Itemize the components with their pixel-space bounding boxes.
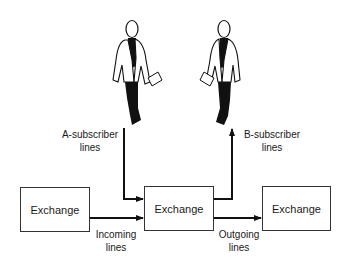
a-subscriber-line bbox=[124, 128, 143, 199]
b-subscriber-label: B-subscriber lines bbox=[238, 128, 306, 154]
a-subscriber-label-line1: A-subscriber bbox=[56, 128, 124, 141]
outgoing-label-line2: lines bbox=[212, 241, 266, 254]
incoming-label-line1: Incoming bbox=[88, 228, 144, 241]
b-subscriber-label-line2: lines bbox=[238, 141, 306, 154]
exchange-middle: Exchange bbox=[144, 186, 214, 231]
exchange-left-label: Exchange bbox=[31, 204, 80, 216]
b-subscriber-person-icon bbox=[200, 21, 240, 126]
outgoing-label: Outgoing lines bbox=[212, 228, 266, 254]
exchange-left: Exchange bbox=[20, 187, 90, 232]
a-subscriber-label: A-subscriber lines bbox=[56, 128, 124, 154]
a-subscriber-label-line2: lines bbox=[56, 141, 124, 154]
outgoing-label-line1: Outgoing bbox=[212, 228, 266, 241]
exchange-middle-label: Exchange bbox=[155, 203, 204, 215]
b-subscriber-line bbox=[213, 129, 232, 199]
a-subscriber-person-icon bbox=[113, 21, 162, 126]
incoming-label: Incoming lines bbox=[88, 228, 144, 254]
b-subscriber-label-line1: B-subscriber bbox=[238, 128, 306, 141]
exchange-right-label: Exchange bbox=[272, 203, 321, 215]
exchange-right: Exchange bbox=[262, 186, 331, 231]
incoming-label-line2: lines bbox=[88, 241, 144, 254]
